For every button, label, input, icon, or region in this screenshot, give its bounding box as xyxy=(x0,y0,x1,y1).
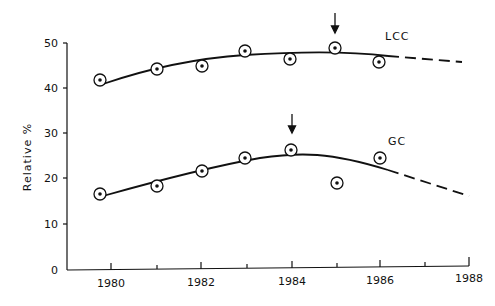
gc-arrow-icon xyxy=(289,114,296,133)
x-tick-1984: 1984 xyxy=(278,275,306,288)
x-tick-1988: 1988 xyxy=(455,272,483,285)
y-tick-20: 20 xyxy=(44,172,58,185)
lcc-arrow-icon xyxy=(332,13,339,33)
x-tick-1986: 1986 xyxy=(366,274,394,287)
y-tick-50: 50 xyxy=(44,37,58,50)
y-tick-40: 40 xyxy=(44,82,58,95)
x-axis xyxy=(67,257,469,270)
y-axis-label: Relative % xyxy=(21,123,34,191)
y-axis xyxy=(63,43,67,270)
lcc-markers xyxy=(94,42,385,86)
lcc-label: LCC xyxy=(385,30,410,43)
y-tick-10: 10 xyxy=(44,218,58,231)
gc-markers xyxy=(94,144,386,200)
x-tick-1980: 1980 xyxy=(97,277,125,290)
chart: 50 40 30 20 10 0 1980 1982 1984 1986 198… xyxy=(0,0,495,306)
x-tick-1982: 1982 xyxy=(187,276,215,289)
y-tick-30: 30 xyxy=(44,127,58,140)
y-tick-0: 0 xyxy=(51,264,58,277)
gc-label: GC xyxy=(388,135,406,148)
